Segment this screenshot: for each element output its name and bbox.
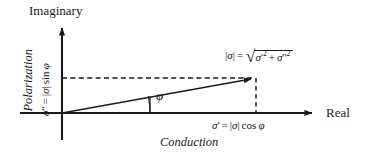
sigma-imag-angle: φ bbox=[39, 63, 51, 69]
sigma-imag-function: sin bbox=[39, 71, 51, 86]
sigma-imag-abs-symbol: σ bbox=[39, 88, 51, 93]
sigma-real-equals: = bbox=[220, 119, 230, 131]
polarization-axis-descriptor: Polarization bbox=[22, 34, 35, 126]
conduction-axis-descriptor: Conduction bbox=[160, 136, 218, 149]
angle-phi-label: φ bbox=[156, 89, 163, 102]
diagram-canvas bbox=[0, 0, 366, 157]
complex-conductivity-diagram: Imaginary Real Polarization Conduction σ… bbox=[0, 0, 366, 157]
radicand: σ′2+σ′′2 bbox=[254, 50, 293, 63]
sigma-imag-abs-open: | bbox=[39, 94, 51, 96]
magnitude-equals: = bbox=[235, 50, 245, 61]
sigma-real-angle: φ bbox=[258, 119, 264, 131]
square-root-group: √ σ′2+σ′′2 bbox=[246, 50, 293, 64]
radicand-term2-exponent: 2 bbox=[287, 49, 291, 58]
sigma-real-function: cos bbox=[240, 119, 257, 131]
imaginary-component-label: σ′′=|σ|sin φ bbox=[40, 42, 51, 138]
sigma-imag-equals: = bbox=[39, 96, 51, 106]
radicand-plus: + bbox=[267, 51, 277, 63]
sigma-imag-primes: ′′ bbox=[39, 106, 51, 110]
real-axis-label: Real bbox=[326, 106, 350, 119]
sigma-imag-symbol: σ bbox=[39, 111, 51, 116]
imaginary-axis-label: Imaginary bbox=[29, 4, 82, 17]
real-component-label: σ′=|σ|cos φ bbox=[212, 120, 265, 131]
magnitude-formula: |σ|= √ σ′2+σ′′2 bbox=[225, 50, 293, 64]
sigma-imag-abs-close: | bbox=[39, 86, 51, 88]
